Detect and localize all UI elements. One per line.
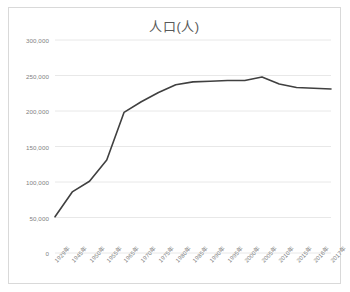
- y-axis-tick-label: 300,000: [9, 37, 49, 44]
- y-axis-tick-label: 100,000: [9, 179, 49, 186]
- y-axis-tick-label: 0: [9, 250, 49, 257]
- y-axis-tick-label: 150,000: [9, 143, 49, 150]
- y-axis-tick-label: 250,000: [9, 72, 49, 79]
- chart-container: 人口(人) 050,000100,000150,000200,000250,00…: [8, 7, 341, 284]
- y-axis-tick-label: 50,000: [9, 214, 49, 221]
- y-axis-tick-label: 200,000: [9, 108, 49, 115]
- gridlines: [55, 40, 331, 253]
- chart-svg: [9, 8, 342, 285]
- plot-area: 050,000100,000150,000200,000250,000300,0…: [9, 8, 342, 285]
